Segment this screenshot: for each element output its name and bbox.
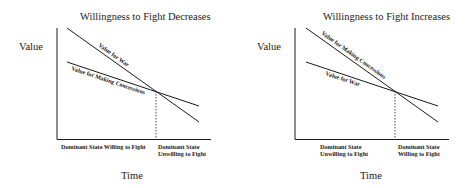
- x-axis-label: Time: [360, 170, 382, 181]
- x-category-right: Dominant State Willing to Fight: [398, 143, 440, 157]
- value-for-concessions-label: Value for Making Concessions: [71, 65, 147, 95]
- x-category-left: Dominant State Unwilling to Fight: [320, 143, 368, 157]
- x-category-left: Dominant State Willing to Fight: [61, 143, 146, 150]
- x-category-right: Dominant State Unwilling to Fight: [158, 143, 206, 157]
- diagram-plot: Value for Making Concessions Value for W…: [235, 0, 467, 188]
- diagram-plot: Value for War Value for Making Concessio…: [0, 0, 235, 188]
- diagram-left: Willingness to Fight Decreases Value Val…: [0, 0, 235, 188]
- x-axis-label: Time: [121, 170, 143, 181]
- diagram-right: Willingness to Fight Increases Value Val…: [235, 0, 467, 188]
- value-for-concessions-line: [67, 62, 199, 106]
- value-for-war-label: Value for War: [97, 42, 130, 68]
